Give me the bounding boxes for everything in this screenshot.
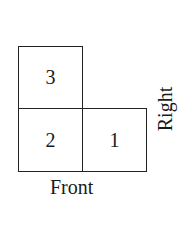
- front-label: Front: [50, 176, 93, 199]
- cell-top-left: 3: [18, 46, 83, 109]
- cell-bottom-left: 2: [18, 108, 83, 172]
- cell-value: 2: [46, 129, 56, 152]
- cell-value: 1: [110, 129, 120, 152]
- right-label: Right: [154, 87, 177, 131]
- cell-bottom-right: 1: [82, 108, 147, 172]
- cell-value: 3: [46, 66, 56, 89]
